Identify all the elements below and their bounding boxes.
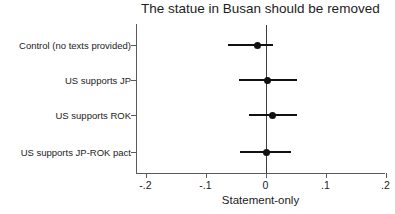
x-axis-tick-point-one — [326, 173, 327, 178]
x-axis-tick-zero — [266, 173, 267, 178]
x-axis-tick-label: -.1 — [186, 179, 226, 192]
estimate-point — [263, 149, 270, 156]
x-axis-tick-label: .2 — [366, 179, 395, 192]
x-axis-tick-label: -.2 — [126, 179, 166, 192]
x-axis-tick-label: 0 — [246, 179, 286, 192]
confidence-interval-bar — [228, 44, 272, 46]
estimate-point — [264, 77, 271, 84]
x-axis-tick-point-two — [386, 173, 387, 178]
estimate-point — [254, 42, 261, 49]
x-axis-tick-minus-point-two — [146, 173, 147, 178]
estimate-point — [269, 112, 276, 119]
x-axis-tick-minus-point-one — [206, 173, 207, 178]
coefficient-plot: The statue in Busan should be removed Co… — [0, 0, 395, 214]
x-axis-tick-label: .1 — [306, 179, 346, 192]
x-axis-title: Statement-only — [136, 193, 385, 207]
